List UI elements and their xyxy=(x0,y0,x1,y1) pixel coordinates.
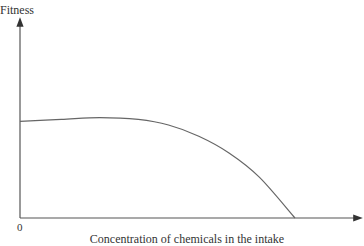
chart-plot xyxy=(0,0,364,246)
fitness-curve xyxy=(20,118,295,218)
